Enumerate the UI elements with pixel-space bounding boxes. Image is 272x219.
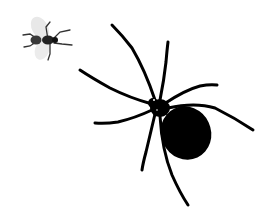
fly-head <box>52 37 58 43</box>
spider-eye <box>153 99 155 101</box>
spider-head <box>148 98 158 108</box>
spider-eye <box>156 109 158 111</box>
fly-abdomen <box>31 36 42 45</box>
illustration <box>0 0 272 219</box>
